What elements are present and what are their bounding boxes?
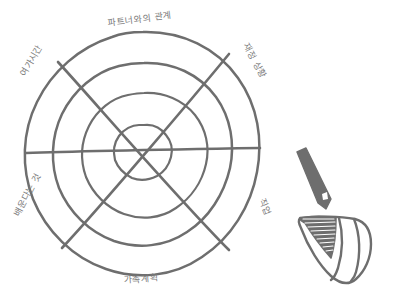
pencil-icon <box>297 148 331 209</box>
wheel-spokes <box>26 54 260 250</box>
ring-outer-4 <box>25 32 260 275</box>
sketch-canvas: 파트너와의 관계 재정 상황 직업 가족계획 배운다는 것 여가시간 <box>0 0 393 307</box>
wedge-band-divider-2 <box>351 219 359 281</box>
pencil-shaft <box>297 148 331 209</box>
shaded-wedge <box>299 217 371 283</box>
axis-label-occupation: 직업 <box>257 197 273 217</box>
axis-label-finance: 재정 상황 <box>241 42 268 80</box>
axis-label-partner: 파트너와의 관계 <box>107 9 172 28</box>
axis-label-leisure: 여가시간 <box>18 43 45 78</box>
wheel-rings <box>25 32 260 275</box>
spoke-horizontal <box>26 148 260 153</box>
wheel-of-life-diagram: 파트너와의 관계 재정 상황 직업 가족계획 배운다는 것 여가시간 <box>0 0 393 307</box>
